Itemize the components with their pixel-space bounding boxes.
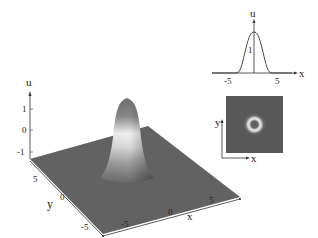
x-tick-0: 0 bbox=[168, 207, 173, 217]
x-tick-5-profile: 5 bbox=[275, 76, 280, 86]
x-tick-m5-profile: -5 bbox=[224, 76, 232, 86]
x-label-heat: x bbox=[251, 152, 257, 164]
figure: u 1 0 -1 5 0 -5 y -5 0 5 x u 1 -5 5 x y … bbox=[0, 0, 318, 238]
y-tick-m5: -5 bbox=[81, 222, 89, 232]
y-label-3d: y bbox=[47, 197, 53, 211]
y-tick-0: 0 bbox=[60, 192, 65, 202]
y-label-heat: y bbox=[215, 116, 221, 128]
u-axis-arrow-icon bbox=[29, 91, 32, 96]
x-tick-m5: -5 bbox=[121, 219, 129, 229]
z-tick-m1: -1 bbox=[17, 147, 25, 157]
u-axis-arrow-icon bbox=[253, 19, 256, 23]
u-label-profile: u bbox=[250, 7, 256, 19]
z-tick-0: 0 bbox=[22, 125, 27, 135]
y-tick-5: 5 bbox=[33, 174, 38, 184]
heatmap-plot: y x bbox=[215, 96, 283, 164]
x-tick-5: 5 bbox=[209, 195, 214, 205]
x-axis-arrow-icon bbox=[294, 72, 298, 75]
z-tick-1: 1 bbox=[22, 104, 27, 114]
x-label-3d: x bbox=[187, 210, 193, 222]
x-label-profile: x bbox=[299, 67, 305, 79]
u-label-3d: u bbox=[26, 76, 32, 88]
profile-plot: u 1 -5 5 x bbox=[212, 7, 305, 86]
x-axis-arrow-icon-heat bbox=[246, 157, 250, 160]
surface-plot: u 1 0 -1 5 0 -5 y -5 0 5 x bbox=[17, 76, 241, 237]
u-tick-1: 1 bbox=[248, 45, 253, 55]
heatmap-ring bbox=[243, 113, 267, 137]
y-axis-arrow-icon bbox=[221, 119, 224, 123]
